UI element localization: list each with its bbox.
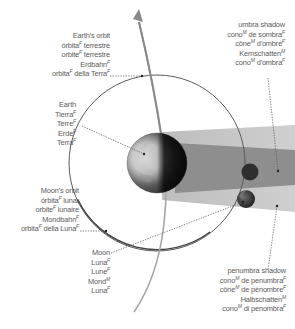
- orbit-direction-arrow-icon: [133, 9, 143, 22]
- label-line: TerraF: [55, 138, 76, 148]
- label-moon-orbit: Moon's orbit órbitaF lunar orbiteF lunai…: [21, 186, 79, 234]
- label-line: orbiteF terrestre: [52, 50, 110, 60]
- label-line: conoM de sombraF: [227, 30, 285, 40]
- moon-orbit-dark-segment: [78, 200, 210, 250]
- lunar-eclipse-diagram: Earth's orbit órbitaF terrestre orbiteF …: [0, 0, 295, 329]
- label-line: umbra shadow: [227, 20, 285, 30]
- label-earth: Earth TierraF TerreF ErdeF TerraF: [55, 100, 76, 148]
- label-line: côneM de pénombreF: [220, 285, 286, 295]
- label-line: conoM d'ombraF: [227, 58, 285, 68]
- label-line: orbitaF della LunaF: [21, 224, 79, 234]
- earth-globe-icon: [127, 133, 187, 193]
- label-line: Moon's orbit: [21, 186, 79, 196]
- label-earth-orbit: Earth's orbit órbitaF terrestre orbiteF …: [52, 31, 110, 79]
- label-line: penumbra shadow: [220, 266, 286, 276]
- label-line: ErdbahnF: [52, 60, 110, 70]
- label-line: côneM d'ombreF: [227, 39, 285, 49]
- umbra-shadow: [175, 143, 295, 193]
- label-line: conoM de penumbraF: [220, 276, 286, 286]
- leader-earth: [82, 126, 144, 154]
- label-line: órbitaF lunar: [21, 196, 79, 206]
- label-line: MondbahnF: [21, 215, 79, 225]
- label-line: KernschattenM: [227, 49, 285, 59]
- label-penumbra-shadow: penumbra shadow conoM de penumbraF côneM…: [220, 266, 286, 314]
- label-umbra-shadow: umbra shadow conoM de sombraF côneM d'om…: [227, 20, 285, 68]
- label-line: conoM di penombraF: [220, 304, 286, 314]
- label-line: LunaF: [88, 286, 110, 296]
- label-moon: Moon LunaF LuneF MondM LunaF: [88, 248, 110, 296]
- leader-penumbra: [268, 206, 277, 270]
- label-line: orbitaF della TerraF: [52, 69, 110, 79]
- moon-in-umbra: [242, 164, 259, 181]
- label-line: HalbschattenM: [220, 295, 286, 305]
- earth-orbit-upper: [139, 22, 162, 140]
- label-line: orbiteF lunaire: [21, 205, 79, 215]
- moon-icon: [237, 190, 255, 208]
- leader-moon: [111, 202, 243, 253]
